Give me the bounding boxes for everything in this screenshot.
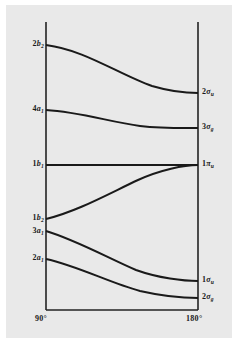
orbital-label-right-2su: 2σu bbox=[202, 87, 214, 97]
axis-tick-label-180: 180° bbox=[186, 314, 202, 323]
curve-2b2-2su bbox=[46, 45, 198, 93]
orbital-label-left-3a1: 3a1 bbox=[14, 226, 44, 236]
label-subscript: g bbox=[211, 296, 214, 302]
orbital-label-left-1b1: 1b1 bbox=[14, 159, 44, 169]
curve-1b2-1pu bbox=[46, 165, 198, 219]
curve-4a1-3sg bbox=[46, 110, 198, 128]
label-subscript: 1 bbox=[41, 108, 44, 114]
orbital-label-right-1pu: 1πu bbox=[202, 159, 214, 169]
orbital-label-right-2sg: 2σg bbox=[202, 292, 214, 302]
curve-3a1-1su bbox=[46, 231, 198, 281]
orbital-label-left-4a1: 4a1 bbox=[14, 104, 44, 114]
orbital-label-right-1su: 1σu bbox=[202, 275, 214, 285]
label-subscript: 2 bbox=[41, 43, 44, 49]
label-subscript: u bbox=[211, 163, 214, 169]
orbital-label-left-2a1: 2a1 bbox=[14, 253, 44, 263]
orbital-label-left-1b2: 1b2 bbox=[14, 213, 44, 223]
label-subscript: 1 bbox=[41, 163, 44, 169]
label-subscript: 1 bbox=[41, 257, 44, 263]
orbital-label-right-3sg: 3σg bbox=[202, 122, 214, 132]
orbital-label-left-2b2: 2b2 bbox=[14, 39, 44, 49]
label-subscript: u bbox=[211, 279, 214, 285]
figure-page: 2b2 4a1 1b1 1b2 3a1 2a1 2σu 3σg 1πu 1σu … bbox=[0, 0, 238, 351]
label-subscript: u bbox=[211, 91, 214, 97]
label-subscript: 1 bbox=[41, 230, 44, 236]
axis-tick-label-90: 90° bbox=[35, 314, 47, 323]
label-subscript: g bbox=[211, 126, 214, 132]
label-subscript: 2 bbox=[41, 217, 44, 223]
